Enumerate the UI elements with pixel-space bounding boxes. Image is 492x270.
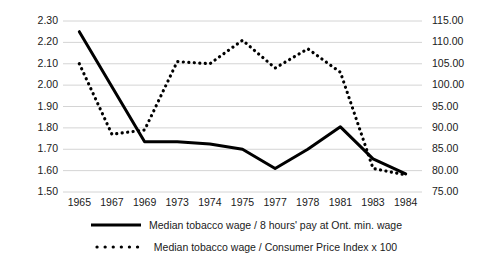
y-axis-right-tick: 90.00 [432,121,480,133]
y-axis-right-tick: 75.00 [432,185,480,197]
y-axis-left-tick: 1.90 [20,100,58,112]
y-axis-left-tick: 2.10 [20,57,58,69]
chart-container: 1.501.601.701.801.902.002.102.202.30 75.… [0,0,492,270]
y-axis-left-tick: 2.20 [20,35,58,47]
y-axis-right-tick: 105.00 [432,57,480,69]
series-line-2 [79,40,405,175]
y-axis-right-tick: 80.00 [432,164,480,176]
y-axis-left-tick: 1.50 [20,185,58,197]
series-lines [79,32,405,175]
y-axis-right-tick: 95.00 [432,100,480,112]
chart-legend: Median tobacco wage / 8 hours' pay at On… [0,214,492,258]
series-line-1 [79,32,405,174]
y-axis-left-tick: 2.00 [20,78,58,90]
legend-item-dotted: Median tobacco wage / Consumer Price Ind… [0,236,492,258]
legend-label-solid: Median tobacco wage / 8 hours' pay at On… [149,219,402,231]
y-axis-right-tick: 100.00 [432,78,480,90]
y-axis-left-tick: 1.60 [20,164,58,176]
y-axis-left-tick: 1.70 [20,142,58,154]
legend-label-dotted: Median tobacco wage / Consumer Price Ind… [154,241,397,253]
x-axis-tick: 1984 [386,196,426,208]
gridlines [63,21,422,192]
y-axis-left-tick: 1.80 [20,121,58,133]
y-axis-right-tick: 85.00 [432,142,480,154]
y-axis-right-tick: 115.00 [432,14,480,26]
legend-item-solid: Median tobacco wage / 8 hours' pay at On… [0,214,492,236]
y-axis-left-tick: 2.30 [20,14,58,26]
y-axis-right-tick: 110.00 [432,35,480,47]
legend-key-solid-line [90,219,142,231]
legend-key-dotted-line [95,241,147,253]
